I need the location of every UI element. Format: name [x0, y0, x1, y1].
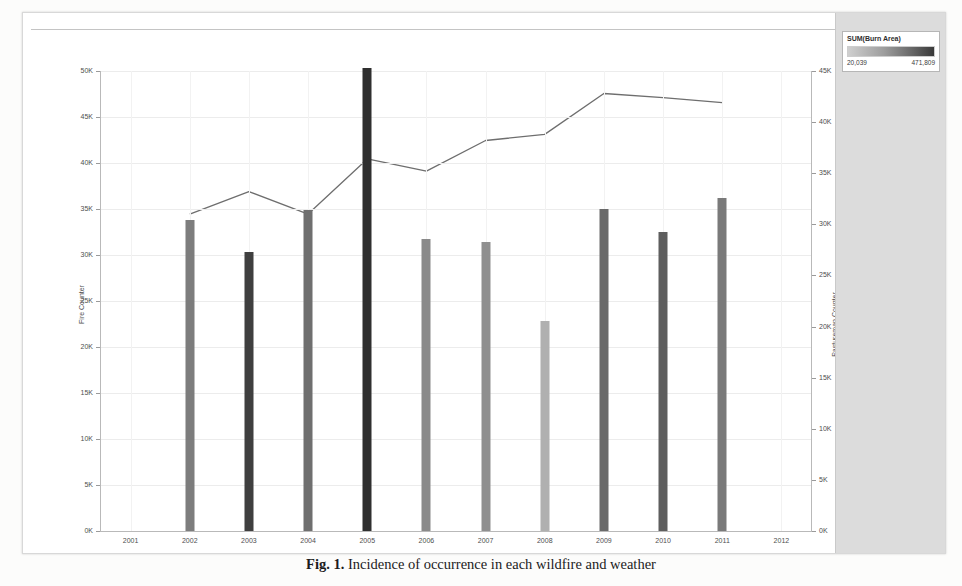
y-axis-tick	[96, 347, 100, 348]
y2-axis-tick-label: 20K	[819, 323, 831, 331]
line-series-path[interactable]	[190, 94, 723, 215]
y-gridline	[101, 485, 811, 486]
y-gridline	[101, 439, 811, 440]
y2-axis-tick	[812, 429, 816, 430]
y-gridline	[101, 347, 811, 348]
y2-axis-tick	[812, 531, 816, 532]
y-axis-tick-label: 45K	[81, 113, 93, 121]
y2-axis-tick-label: 30K	[819, 220, 831, 228]
y2-axis-tick-label: 15K	[819, 374, 831, 382]
bar-2002[interactable]	[185, 220, 194, 531]
y2-axis-tick-label: 5K	[819, 476, 828, 484]
x-gridline	[131, 71, 132, 531]
y-gridline	[101, 117, 811, 118]
x-axis-tick-label: 2002	[182, 537, 198, 544]
legend-max-label: 471,809	[912, 59, 936, 67]
plot-area: Fire Counter Pastureman Counter Year 0K5…	[101, 71, 811, 531]
bar-2009[interactable]	[599, 209, 608, 531]
y2-axis-tick-label: 0K	[819, 527, 828, 535]
y2-axis-tick	[812, 327, 816, 328]
y-axis-tick	[96, 71, 100, 72]
color-legend[interactable]: SUM(Burn Area) 20,039 471,809	[842, 31, 940, 72]
legend-pane: SUM(Burn Area) 20,039 471,809	[835, 13, 946, 553]
y-gridline	[101, 255, 811, 256]
y2-axis-tick	[812, 122, 816, 123]
y-axis-tick-label: 40K	[81, 159, 93, 167]
x-axis-tick-label: 2006	[419, 537, 435, 544]
caption-label: Fig. 1.	[306, 556, 344, 572]
y-axis-tick-label: 15K	[81, 389, 93, 397]
bar-2010[interactable]	[659, 232, 668, 531]
legend-color-ramp	[847, 46, 935, 57]
y-axis-tick-label: 25K	[81, 297, 93, 305]
bar-2003[interactable]	[244, 252, 253, 531]
y2-axis-tick	[812, 275, 816, 276]
bar-2007[interactable]	[481, 242, 490, 531]
figure-caption: Fig. 1. Incidence of occurrence in each …	[0, 556, 962, 573]
y-axis-tick	[96, 209, 100, 210]
y-axis-tick-label: 20K	[81, 343, 93, 351]
y2-axis-tick-label: 25K	[819, 271, 831, 279]
x-axis-tick-label: 2008	[537, 537, 553, 544]
x-axis-tick-label: 2001	[123, 537, 139, 544]
y-axis-tick	[96, 301, 100, 302]
y-axis-tick	[96, 439, 100, 440]
bar-2008[interactable]	[540, 321, 549, 531]
y-axis-tick	[96, 531, 100, 532]
x-axis-tick-label: 2011	[715, 537, 730, 544]
y2-axis-tick-label: 40K	[819, 118, 831, 126]
legend-title: SUM(Burn Area)	[847, 35, 935, 43]
bar-2006[interactable]	[422, 239, 431, 531]
y-axis-tick-label: 0K	[84, 527, 93, 535]
y-axis-tick-label: 10K	[81, 435, 93, 443]
x-axis-tick-label: 2004	[300, 537, 316, 544]
x-axis-tick-label: 2005	[359, 537, 375, 544]
chart-plot-pane: Fire Counter Pastureman Counter Year 0K5…	[23, 13, 835, 553]
y2-axis-tick	[812, 173, 816, 174]
x-axis-tick-label: 2010	[655, 537, 671, 544]
right-axis-line	[811, 71, 812, 531]
y-gridline	[101, 301, 811, 302]
bar-2005[interactable]	[363, 68, 372, 531]
y-gridline	[101, 163, 811, 164]
x-axis-tick-label: 2012	[774, 537, 790, 544]
x-axis-baseline	[100, 531, 812, 532]
y2-axis-tick-label: 45K	[819, 67, 831, 75]
y-gridline	[101, 71, 811, 72]
legend-min-label: 20,039	[847, 59, 867, 67]
y-axis-tick-label: 5K	[84, 481, 93, 489]
y2-axis-tick-label: 35K	[819, 169, 831, 177]
y2-axis-tick	[812, 480, 816, 481]
y-axis-tick-label: 35K	[81, 205, 93, 213]
y-axis-tick	[96, 255, 100, 256]
y-axis-tick	[96, 117, 100, 118]
y-axis-tick	[96, 163, 100, 164]
viz-top-border	[31, 29, 931, 30]
y2-axis-tick-label: 10K	[819, 425, 831, 433]
y-axis-tick-label: 50K	[81, 67, 93, 75]
bar-2004[interactable]	[304, 210, 313, 531]
y-axis-tick-label: 30K	[81, 251, 93, 259]
y-axis-tick	[96, 393, 100, 394]
y-gridline	[101, 209, 811, 210]
x-axis-tick-label: 2003	[241, 537, 257, 544]
chart-figure: Fire Counter Pastureman Counter Year 0K5…	[22, 12, 946, 554]
y2-axis-tick	[812, 224, 816, 225]
y-gridline	[101, 393, 811, 394]
y2-axis-tick	[812, 71, 816, 72]
y2-axis-tick	[812, 378, 816, 379]
x-axis-tick-label: 2007	[478, 537, 494, 544]
caption-text: Incidence of occurrence in each wildfire…	[348, 556, 656, 572]
bar-2011[interactable]	[718, 198, 727, 531]
x-axis-tick-label: 2009	[596, 537, 612, 544]
y-axis-tick	[96, 485, 100, 486]
x-gridline	[781, 71, 782, 531]
legend-scale: 20,039 471,809	[847, 59, 935, 67]
